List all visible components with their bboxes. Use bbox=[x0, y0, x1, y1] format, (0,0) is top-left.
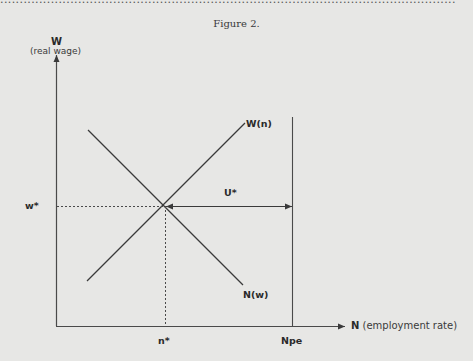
u-star-label: U* bbox=[224, 187, 237, 198]
w-star-label: w* bbox=[25, 200, 39, 211]
wn-curve-label: W(n) bbox=[246, 118, 272, 129]
npe-label: Npe bbox=[281, 335, 302, 346]
x-axis-label: N (employment rate) bbox=[351, 320, 457, 331]
wn-supply-curve bbox=[87, 123, 245, 281]
n-star-label: n* bbox=[158, 335, 170, 346]
x-axis-description: (employment rate) bbox=[363, 320, 458, 331]
nw-curve-label: N(w) bbox=[243, 289, 268, 300]
y-axis-description: (real wage) bbox=[30, 46, 81, 56]
figure-page: ........................................… bbox=[0, 0, 473, 361]
x-axis-symbol: N bbox=[351, 320, 359, 331]
